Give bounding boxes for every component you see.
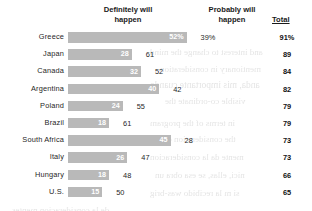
column-header-definitely-line1: Definitely will (104, 5, 153, 14)
country-label: Hungary (0, 170, 64, 180)
column-header-probably-line1: Probably will (209, 5, 256, 14)
total-value: 73 (272, 153, 302, 162)
chart-row: South Africa452873 (0, 133, 312, 150)
total-value: 66 (272, 171, 302, 180)
definitely-will-happen-bar: 28 (68, 49, 132, 60)
definitely-will-happen-value: 26 (116, 154, 124, 162)
definitely-will-happen-value: 40 (148, 85, 156, 93)
probably-will-happen-value: 48 (123, 171, 131, 180)
definitely-will-happen-value: 18 (98, 171, 106, 179)
column-header-total: Total (272, 15, 306, 25)
chart-column-headers: Definitely will happen Probably will hap… (0, 5, 312, 29)
country-label: South Africa (0, 135, 64, 145)
chart-row: Canada325284 (0, 64, 312, 81)
total-value: 91% (272, 33, 302, 42)
country-label: Brazil (0, 118, 64, 128)
probably-will-happen-value: 42 (173, 85, 181, 94)
chart-row: Brazil186179 (0, 116, 312, 133)
country-label: Argentina (0, 84, 64, 94)
column-header-definitely-line2: happen (114, 15, 141, 24)
total-value: 89 (272, 50, 302, 59)
definitely-will-happen-bar: 15 (68, 187, 102, 198)
chart-rows: Greece52%39%91%Japan286189Canada325284Ar… (0, 30, 312, 202)
country-label: Greece (0, 32, 64, 42)
definitely-will-happen-value: 18 (98, 119, 106, 127)
definitely-will-happen-value: 15 (91, 188, 99, 196)
definitely-will-happen-value: 32 (130, 68, 138, 76)
chart-row: U.S.155065 (0, 185, 312, 202)
probably-will-happen-value: 55 (137, 102, 145, 111)
total-value: 84 (272, 67, 302, 76)
country-label: Japan (0, 49, 64, 59)
definitely-will-happen-bar: 24 (68, 101, 123, 112)
probably-will-happen-value: 39% (201, 33, 216, 42)
probably-will-happen-value: 47 (141, 153, 149, 162)
definitely-will-happen-value: 52% (169, 33, 183, 41)
country-label: Poland (0, 101, 64, 111)
chart-row: Hungary184866 (0, 168, 312, 185)
definitely-will-happen-bar: 45 (68, 135, 171, 146)
chart-row: Japan286189 (0, 47, 312, 64)
probably-will-happen-value: 61 (123, 119, 131, 128)
stacked-intention-chart: Definitely will happen Probably will hap… (0, 0, 312, 211)
definitely-will-happen-value: 45 (160, 136, 168, 144)
country-label: U.S. (0, 187, 64, 197)
column-header-definitely: Definitely will happen (88, 5, 168, 24)
definitely-will-happen-bar: 52% (68, 32, 187, 43)
column-header-probably-line2: happen (218, 15, 245, 24)
country-label: Canada (0, 66, 64, 76)
country-label: Italy (0, 152, 64, 162)
definitely-will-happen-value: 24 (112, 102, 120, 110)
chart-row: Greece52%39%91% (0, 30, 312, 47)
total-value: 65 (272, 188, 302, 197)
total-value: 73 (272, 136, 302, 145)
column-header-total-label: Total (272, 15, 290, 24)
chart-row: Argentina404282 (0, 82, 312, 99)
definitely-will-happen-bar: 40 (68, 84, 159, 95)
total-value: 79 (272, 119, 302, 128)
definitely-will-happen-bar: 18 (68, 170, 109, 181)
column-header-probably: Probably will happen (196, 5, 268, 24)
chart-row: Italy264773 (0, 150, 312, 167)
probably-will-happen-value: 28 (185, 136, 193, 145)
definitely-will-happen-bar: 18 (68, 118, 109, 129)
total-value: 79 (272, 102, 302, 111)
definitely-will-happen-bar: 26 (68, 152, 127, 163)
probably-will-happen-value: 50 (116, 188, 124, 197)
chart-row: Poland245579 (0, 99, 312, 116)
probably-will-happen-value: 52 (155, 67, 163, 76)
definitely-will-happen-value: 28 (121, 50, 129, 58)
total-value: 82 (272, 85, 302, 94)
probably-will-happen-value: 61 (146, 50, 154, 59)
definitely-will-happen-bar: 32 (68, 66, 141, 77)
